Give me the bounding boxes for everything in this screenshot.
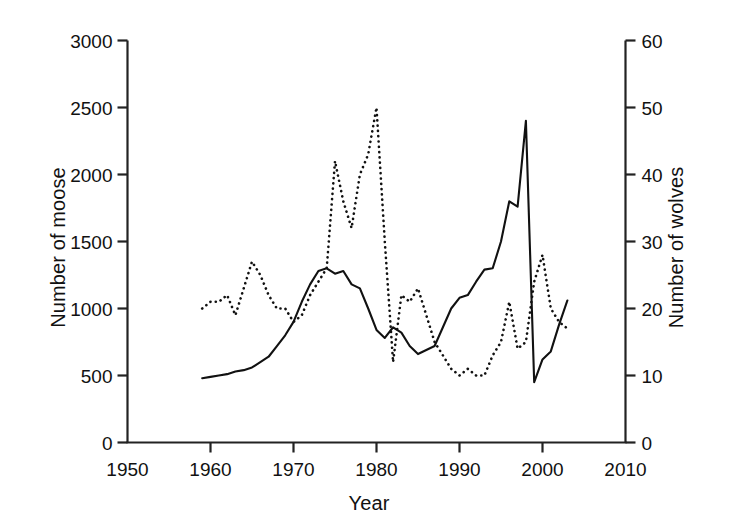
chart-tick-labels: 0500100015002000250030000102030405060195… — [70, 31, 662, 480]
x-axis-tick-label: 2010 — [604, 459, 646, 480]
y-axis-right-tick-label: 50 — [642, 98, 663, 119]
chart-figure: 0500100015002000250030000102030405060195… — [0, 0, 738, 532]
y-axis-right-tick-label: 10 — [642, 366, 663, 387]
y-axis-right-tick-label: 60 — [642, 31, 663, 52]
x-axis-tick-label: 1950 — [106, 459, 148, 480]
chart-axes — [118, 41, 636, 453]
x-axis-tick-label: 1970 — [272, 459, 314, 480]
y-axis-left-tick-label: 0 — [102, 433, 113, 454]
x-axis-tick-label: 1990 — [438, 459, 480, 480]
y-axis-right-tick-label: 20 — [642, 299, 663, 320]
y-axis-left-tick-label: 2000 — [70, 165, 112, 186]
y-axis-right-tick-label: 30 — [642, 232, 663, 253]
y-axis-left-tick-label: 500 — [81, 366, 113, 387]
y-axis-left-tick-label: 2500 — [70, 98, 112, 119]
x-axis-title: Year — [0, 492, 738, 515]
y-axis-left-tick-label: 1500 — [70, 232, 112, 253]
x-axis-tick-label: 2000 — [521, 459, 563, 480]
chart-series — [202, 108, 567, 383]
wolves-series-line — [202, 108, 567, 376]
x-axis-tick-label: 1980 — [355, 459, 397, 480]
y-axis-left-title: Number of moose — [47, 128, 70, 368]
y-axis-left-tick-label: 3000 — [70, 31, 112, 52]
y-axis-right-tick-label: 40 — [642, 165, 663, 186]
y-axis-right-tick-label: 0 — [642, 433, 653, 454]
y-axis-left-tick-label: 1000 — [70, 299, 112, 320]
y-axis-right-title: Number of wolves — [665, 128, 688, 368]
x-axis-tick-label: 1960 — [189, 459, 231, 480]
population-line-chart: 0500100015002000250030000102030405060195… — [0, 0, 738, 532]
